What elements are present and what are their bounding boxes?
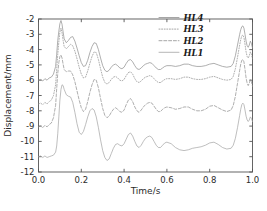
- y-tick-label: -8: [26, 106, 34, 116]
- chart-figure: -2-3-4-5-6-7-8-9-10-11-120.00.20.40.60.8…: [0, 0, 267, 211]
- y-tick-label: -7: [26, 91, 34, 101]
- y-tick-label: -5: [26, 60, 34, 70]
- x-tick-label: 1.0: [246, 175, 260, 185]
- legend-label-hl3[interactable]: HL3: [183, 24, 204, 34]
- x-tick-label: 0.0: [32, 175, 46, 185]
- y-axis-title: Displacement/mm: [3, 54, 13, 136]
- x-tick-label: 0.2: [75, 175, 89, 185]
- y-tick-label: -3: [26, 29, 34, 39]
- x-tick-label: 0.8: [203, 175, 217, 185]
- y-tick-label: -6: [26, 75, 34, 85]
- y-tick-label: -4: [26, 45, 34, 55]
- legend-label-hl1[interactable]: HL1: [183, 48, 204, 58]
- x-axis-title: Time/s: [130, 186, 161, 196]
- x-tick-label: 0.6: [160, 175, 174, 185]
- legend-label-hl2[interactable]: HL2: [183, 36, 204, 46]
- y-tick-label: -9: [26, 121, 34, 131]
- y-tick-label: -2: [26, 14, 34, 24]
- legend-label-hl4[interactable]: HL4: [183, 13, 204, 23]
- x-tick-label: 0.4: [117, 175, 131, 185]
- displacement-time-line-chart: -2-3-4-5-6-7-8-9-10-11-120.00.20.40.60.8…: [0, 0, 267, 211]
- y-tick-label: -11: [21, 152, 35, 162]
- y-tick-label: -10: [21, 136, 35, 146]
